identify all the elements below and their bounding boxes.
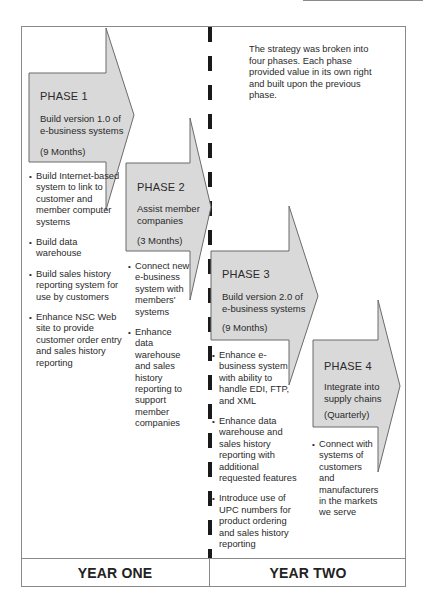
phase-1-bullets: Build Internet-based system to link to c… <box>30 171 122 378</box>
year-two-label: YEAR TWO <box>210 559 406 587</box>
phase-1-subtitle-line: e-business systems <box>40 125 123 137</box>
phase-1-bullet: Build Internet-based system to link to c… <box>30 171 122 228</box>
phase-2-bullet: Enhance data warehouse and sales history… <box>129 327 191 430</box>
phase-1-duration: (9 Months) <box>40 146 85 157</box>
phase-3-bullet: Enhance data warehouse and sales history… <box>213 416 301 484</box>
phase-1-title: PHASE 1 <box>40 90 88 102</box>
phase-3-subtitle-line: Build version 2.0 of <box>222 291 305 303</box>
phase-3-title: PHASE 3 <box>222 268 270 280</box>
phase-4-duration: (Quarterly) <box>324 409 369 420</box>
phase-1-bullet: Build data warehouse <box>30 237 122 260</box>
phase-1-bullet: Build sales history reporting system for… <box>30 269 122 303</box>
phase-2-duration: (3 Months) <box>137 235 182 246</box>
phase-1-subtitle-line: Build version 1.0 of <box>40 113 123 125</box>
phase-4-bullet: Connect with systems of customers and ma… <box>313 439 379 519</box>
phase-3-bullet: Enhance e-business system with ability t… <box>213 350 301 407</box>
year-row: YEAR ONE YEAR TWO <box>21 558 406 587</box>
phase-3-subtitle-line: e-business systems <box>222 303 305 315</box>
year-one-label: YEAR ONE <box>21 559 210 587</box>
phase-3-duration: (9 Months) <box>222 322 267 333</box>
phase-4-title: PHASE 4 <box>324 360 372 372</box>
phase-2-title: PHASE 2 <box>137 181 185 193</box>
phase-4-bullets: Connect with systems of customers and ma… <box>313 439 379 528</box>
phase-4-subtitle-line: Integrate into <box>324 381 382 393</box>
phase-4-subtitle: Integrate into supply chains <box>324 381 382 405</box>
phase-2-subtitle-line: companies <box>137 215 200 227</box>
phase-3-subtitle: Build version 2.0 of e-business systems <box>222 291 305 315</box>
phase-4-subtitle-line: supply chains <box>324 393 382 405</box>
phase-3-bullet: Introduce use of UPC numbers for product… <box>213 493 301 550</box>
phase-1-subtitle: Build version 1.0 of e-business systems <box>40 113 123 137</box>
phase-1-bullet: Enhance NSC Web site to provide customer… <box>30 312 122 369</box>
phase-2-subtitle-line: Assist member <box>137 203 200 215</box>
phase-2-bullets: Connect new e-business system with membe… <box>129 261 191 439</box>
intro-text: The strategy was broken into four phases… <box>249 44 379 102</box>
phase-2-bullet: Connect new e-business system with membe… <box>129 261 191 318</box>
phase-3-bullets: Enhance e-business system with ability t… <box>213 350 301 560</box>
phase-2-subtitle: Assist member companies <box>137 203 200 227</box>
